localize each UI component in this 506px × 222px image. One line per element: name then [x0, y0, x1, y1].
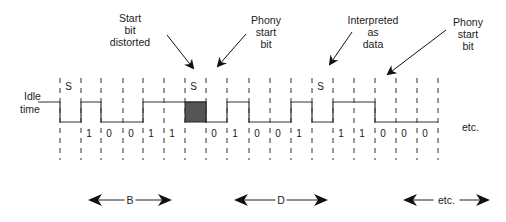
data-bit-label: 0	[211, 128, 217, 139]
interpreted-as-data-label: data	[363, 38, 384, 50]
data-bit-label: 1	[359, 128, 365, 139]
data-bit-label: 0	[128, 128, 134, 139]
data-bit-label: 1	[232, 128, 238, 139]
start-bit-distorted-label: bit	[124, 24, 135, 36]
start-bit-label: S	[65, 81, 72, 92]
data-bit-label: 0	[275, 128, 281, 139]
idle-time-label: Idle	[24, 90, 41, 102]
character-spans: BDetc.	[88, 194, 490, 206]
interpreted-as-data-label: Interpreted	[348, 14, 399, 26]
data-bit-label: 1	[86, 128, 92, 139]
distorted-start-bit	[185, 102, 206, 122]
bit-labels: S10011S01001S11000	[65, 81, 428, 139]
signal-waveform	[38, 102, 438, 122]
phony-start-bit-1-label: bit	[260, 38, 271, 50]
async-framing-error-diagram: Idle time S10011S01001S11000 etc. Startb…	[0, 0, 506, 222]
interpreted-as-data-label: as	[367, 26, 378, 38]
data-bit-label: 0	[380, 128, 386, 139]
start-bit-distorted-label: distorted	[110, 36, 150, 48]
data-bit-label: 0	[422, 128, 428, 139]
span-D: D	[234, 194, 328, 206]
start-bit-distorted-label: Start	[119, 12, 141, 24]
data-bit-label: 0	[254, 128, 260, 139]
annotations: StartbitdistortedPhonystartbitInterprete…	[110, 12, 484, 52]
data-bit-label: 1	[148, 128, 154, 139]
phony-start-bit-1-label: start	[256, 26, 277, 38]
start-bit-label: S	[317, 81, 324, 92]
data-bit-label: 0	[401, 128, 407, 139]
idle-time-label-2: time	[20, 103, 40, 115]
span-B: B	[88, 194, 172, 206]
waveform-path	[38, 102, 438, 122]
annotation-arrows	[167, 30, 446, 74]
data-bit-label: 1	[169, 128, 175, 139]
span-label: etc.	[438, 194, 455, 206]
phony-start-bit-2-label: start	[458, 28, 479, 40]
arrow-phony-start-bit-2	[388, 30, 446, 74]
arrow-interpreted-as-data	[330, 32, 352, 64]
data-bit-label: 1	[338, 128, 344, 139]
arrow-start-bit-distorted	[167, 35, 193, 68]
phony-start-bit-1-label: Phony	[251, 14, 282, 26]
span-label: B	[126, 194, 133, 206]
data-bit-label: 1	[296, 128, 302, 139]
phony-start-bit-2-label: Phony	[453, 16, 484, 28]
span-label: D	[277, 194, 285, 206]
arrow-phony-start-bit-1	[218, 34, 246, 66]
span-etc: etc.	[403, 194, 490, 206]
trailing-etc-label: etc.	[462, 121, 479, 133]
data-bit-label: 0	[106, 128, 112, 139]
start-bit-label: S	[190, 81, 197, 92]
phony-start-bit-2-label: bit	[462, 40, 473, 52]
